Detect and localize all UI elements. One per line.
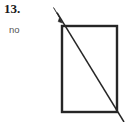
geometry-figure: 13. no: [0, 0, 136, 122]
arrowhead-icon: [54, 8, 63, 24]
diagonal-ray-line: [57, 13, 124, 122]
geometry-diagram: [0, 0, 136, 122]
rectangle-shape: [62, 26, 117, 112]
